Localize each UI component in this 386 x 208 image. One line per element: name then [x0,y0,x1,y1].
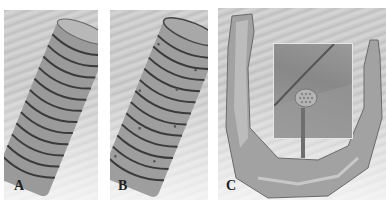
arrow-indicator [301,108,305,158]
panel-label-b: B [118,178,127,194]
implant-porous-illustration [110,10,208,200]
panel-label-a: A [14,178,24,194]
implant-smooth-illustration [4,10,98,200]
panel-a: A [4,10,98,200]
panel-label-c: C [226,178,236,194]
implant-inset [273,43,353,139]
panel-c: C [218,8,386,200]
panel-b: B [110,10,208,200]
